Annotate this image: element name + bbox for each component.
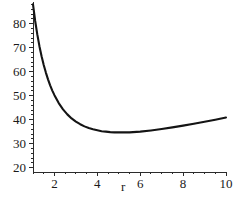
x-tick-label: 2 bbox=[51, 176, 58, 191]
y-tick-label: 30 bbox=[13, 136, 26, 151]
x-tick-label: 8 bbox=[180, 176, 187, 191]
plot-canvas: 20304050607080 246810 r bbox=[0, 0, 243, 200]
x-tick-label: 4 bbox=[94, 176, 101, 191]
y-tick-label: 20 bbox=[13, 160, 26, 175]
y-tick-label: 70 bbox=[13, 40, 26, 55]
plot-figure: 20304050607080 246810 r bbox=[0, 0, 243, 200]
x-axis-title: r bbox=[121, 179, 126, 194]
y-tick-label: 50 bbox=[13, 88, 26, 103]
x-tick-label: 10 bbox=[220, 176, 233, 191]
y-tick-label: 60 bbox=[13, 64, 26, 79]
y-tick-label: 80 bbox=[13, 16, 26, 31]
x-tick-label: 6 bbox=[137, 176, 144, 191]
y-tick-label: 40 bbox=[13, 112, 26, 127]
